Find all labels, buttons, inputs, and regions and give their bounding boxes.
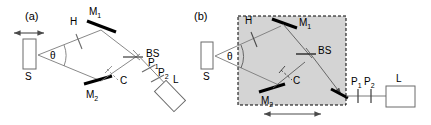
panel-b-label: (b)	[194, 10, 207, 22]
mirror-m1-label-a: M1	[89, 6, 101, 19]
compensator-tick-a	[105, 66, 112, 73]
ray-m1-to-bs-a	[101, 30, 140, 60]
mirror-m2-label-a: M2	[86, 89, 98, 102]
translatable-stage-box-b	[238, 16, 346, 105]
ray-source-to-m2-a	[38, 55, 101, 81]
angle-label-a: θ	[50, 50, 56, 61]
detector-l-a	[155, 80, 186, 111]
polarizer-p1-label-b: P1	[351, 76, 362, 89]
panel-a-label: (a)	[25, 10, 38, 22]
source-box-a	[23, 39, 36, 69]
diagram-canvas: (a) S θ H M1 M2 BS	[0, 0, 431, 125]
detector-l-label-b: L	[396, 73, 402, 84]
polarizer-p2-label-b: P2	[364, 76, 375, 89]
compensator-label-a: C	[120, 75, 127, 86]
panel-b: (b) S θ H M1 M2 BS	[194, 10, 415, 114]
source-label-b: S	[203, 71, 210, 82]
angle-label-b: θ	[227, 51, 233, 62]
figure-root: (a) S θ H M1 M2 BS	[0, 0, 431, 125]
source-box-b	[201, 42, 213, 69]
beam-splitter-label-b: BS	[318, 45, 332, 56]
detector-l-label-a: L	[173, 74, 179, 85]
half-wave-plate-label-a: H	[70, 16, 77, 27]
ray-source-to-m1-a	[38, 30, 101, 55]
detector-l-b	[386, 86, 415, 107]
compensator-label-b: C	[293, 75, 300, 86]
source-label-a: S	[25, 71, 32, 82]
half-wave-plate-a	[76, 34, 82, 49]
angle-arc-a	[64, 45, 66, 66]
mirror-m2-a	[84, 76, 112, 84]
half-wave-plate-label-b: H	[245, 15, 252, 26]
panel-a: (a) S θ H M1 M2 BS	[14, 6, 185, 112]
